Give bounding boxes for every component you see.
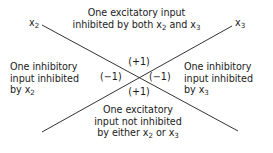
quadrant-text-left-line2: input inhibited [10,73,79,85]
figure-canvas: x2 x3 One excitatory input inhibited by … [0,0,273,153]
quadrant-text-right-line3-sub: 3 [204,88,208,97]
quadrant-text-left-line3: by x2 [10,84,79,96]
weight-label-bottom: (+1) [128,87,150,97]
quadrant-text-left: One inhibitory input inhibited by x2 [10,61,79,96]
quadrant-text-right-line2: input inhibited [184,73,253,85]
axis-label-x2-subscript: 2 [35,21,40,30]
quadrant-text-right-line3: by x3 [184,84,253,96]
quadrant-text-top-line2-sub2: 3 [196,23,200,32]
quadrant-text-top-line2: inhibited by both x2 and x3 [73,19,201,31]
quadrant-text-top-line1: One excitatory input [73,7,201,19]
quadrant-text-left-line3-pre: by x [10,84,30,95]
quadrant-text-top-line2-pre: inhibited by both x [73,19,162,30]
axis-label-x3: x3 [235,18,245,28]
axis-label-x3-subscript: 3 [241,21,246,30]
quadrant-text-bottom-line3-mid: or x [153,127,174,138]
quadrant-text-left-line1: One inhibitory [10,61,79,73]
quadrant-text-bottom-line3: by either x2 or x3 [94,127,182,139]
quadrant-text-bottom-line3-pre: by either x [97,127,148,138]
weight-label-top: (+1) [128,57,150,67]
quadrant-text-top-line2-mid: and x [166,19,196,30]
weight-label-left: (−1) [100,72,122,82]
quadrant-text-bottom-line3-sub2: 3 [174,131,178,140]
quadrant-text-right-line3-pre: by x [184,84,204,95]
weight-label-right: (−1) [149,72,171,82]
axis-label-x2: x2 [29,18,39,28]
quadrant-text-left-line3-sub: 2 [30,88,34,97]
quadrant-text-right-line1: One inhibitory [184,61,253,73]
quadrant-text-bottom: One excitatory input not inhibited by ei… [94,104,182,139]
quadrant-text-top: One excitatory input inhibited by both x… [73,7,201,30]
quadrant-text-right: One inhibitory input inhibited by x3 [184,61,253,96]
quadrant-text-bottom-line2: input not inhibited [94,116,182,128]
quadrant-text-bottom-line1: One excitatory [94,104,182,116]
